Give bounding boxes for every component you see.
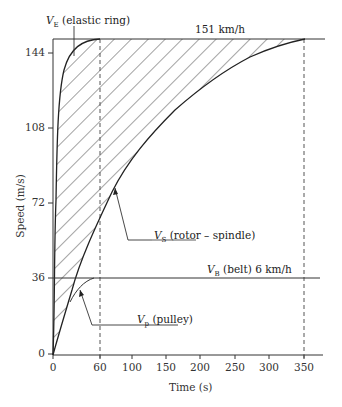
y-tick-0: 0 bbox=[15, 347, 45, 359]
vp-arrowhead bbox=[79, 290, 84, 297]
x-tick-60: 60 bbox=[85, 361, 115, 373]
x-tick-250: 250 bbox=[220, 361, 250, 373]
y-tick-36: 36 bbox=[15, 271, 45, 283]
vs-leader bbox=[115, 188, 152, 240]
y-axis-title: Speed (m/s) bbox=[14, 171, 26, 241]
vs-label: VS (rotor – spindle) bbox=[154, 229, 255, 244]
speed-time-chart bbox=[0, 0, 342, 407]
x-tick-200: 200 bbox=[185, 361, 215, 373]
x-tick-350: 350 bbox=[289, 361, 319, 373]
y-ticks bbox=[48, 53, 53, 354]
y-tick-144: 144 bbox=[15, 46, 45, 58]
vb-label: VB (belt) 6 km/h bbox=[207, 263, 292, 278]
y-tick-108: 108 bbox=[15, 121, 45, 133]
x-tick-100: 100 bbox=[117, 361, 147, 373]
x-ticks bbox=[53, 355, 304, 359]
hatched-region bbox=[50, 35, 310, 360]
ve-label: VE (elastic ring) bbox=[46, 14, 130, 29]
x-tick-0: 0 bbox=[38, 361, 68, 373]
x-tick-300: 300 bbox=[254, 361, 284, 373]
vp-label: Vp (pulley) bbox=[137, 313, 193, 328]
top-speed-label: 151 km/h bbox=[195, 23, 245, 35]
x-tick-150: 150 bbox=[151, 361, 181, 373]
x-axis-title: Time (s) bbox=[169, 381, 212, 393]
